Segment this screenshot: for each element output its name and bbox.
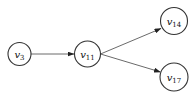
- edge-v11-to-v14: [101, 29, 162, 55]
- graph-diagram: v3 v11 v14 v17: [0, 0, 195, 97]
- edge-v11-to-v17: [101, 54, 161, 72]
- node-v11: v11: [75, 41, 101, 67]
- node-v17: v17: [160, 63, 188, 91]
- graph-svg: v3 v11 v14 v17: [0, 0, 195, 97]
- node-v3: v3: [8, 43, 31, 66]
- node-v14: v14: [161, 8, 188, 35]
